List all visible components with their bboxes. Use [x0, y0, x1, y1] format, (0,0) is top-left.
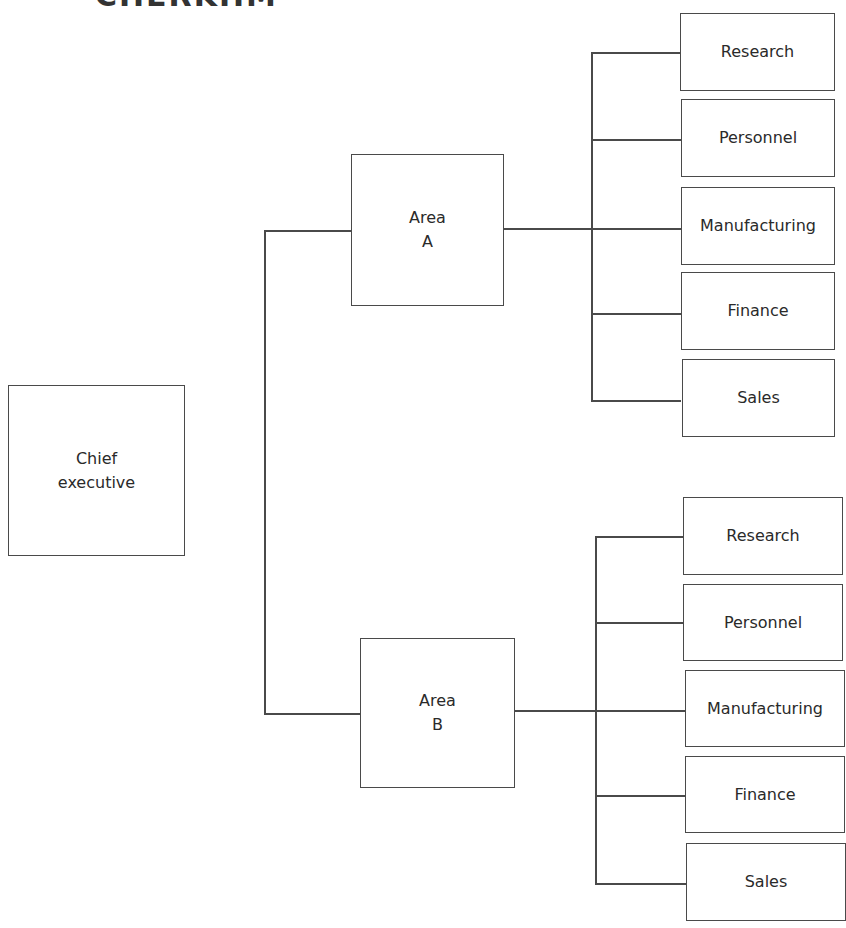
node-b-research: Research: [683, 497, 843, 575]
connector-b-finance: [595, 795, 685, 797]
node-label: Sales: [745, 870, 788, 894]
connector-a-sales: [591, 400, 681, 402]
connector-b-personnel: [595, 622, 684, 624]
node-chief-executive: Chief executive: [8, 385, 185, 556]
node-label: B: [419, 713, 456, 737]
node-b-personnel: Personnel: [683, 584, 843, 661]
connector-to-area-b: [264, 713, 361, 715]
node-label: Finance: [734, 783, 795, 807]
node-a-sales: Sales: [682, 359, 835, 437]
node-label: executive: [58, 471, 135, 495]
node-label: Research: [726, 524, 799, 548]
node-b-finance: Finance: [685, 756, 845, 833]
connector-a-research: [591, 52, 681, 54]
connector-spine-area-b: [595, 536, 597, 884]
node-area-b: Area B: [360, 638, 515, 788]
chart-title-fragment: CHERKHM: [95, 0, 278, 13]
node-label: Area: [409, 206, 446, 230]
node-label: Manufacturing: [700, 214, 816, 238]
connector-a-personnel: [591, 139, 681, 141]
node-label: Research: [721, 40, 794, 64]
node-a-research: Research: [680, 13, 835, 91]
node-label: Chief: [58, 447, 135, 471]
node-a-personnel: Personnel: [681, 99, 835, 177]
node-label: Finance: [727, 299, 788, 323]
node-label: Sales: [737, 386, 780, 410]
node-label: Personnel: [719, 126, 797, 150]
node-a-manufacturing: Manufacturing: [681, 187, 835, 265]
node-label: Personnel: [724, 611, 802, 635]
connector-area-b-out: [514, 710, 685, 712]
connector-spine-areas: [264, 230, 266, 714]
node-label: Manufacturing: [707, 697, 823, 721]
connector-to-area-a: [264, 230, 352, 232]
node-b-manufacturing: Manufacturing: [685, 670, 845, 747]
node-b-sales: Sales: [686, 843, 846, 921]
node-a-finance: Finance: [681, 272, 835, 350]
node-area-a: Area A: [351, 154, 504, 306]
node-label: A: [409, 230, 446, 254]
connector-b-research: [595, 536, 684, 538]
node-label: Area: [419, 689, 456, 713]
connector-spine-area-a: [591, 52, 593, 401]
connector-b-sales: [595, 883, 686, 885]
connector-a-finance: [591, 313, 681, 315]
